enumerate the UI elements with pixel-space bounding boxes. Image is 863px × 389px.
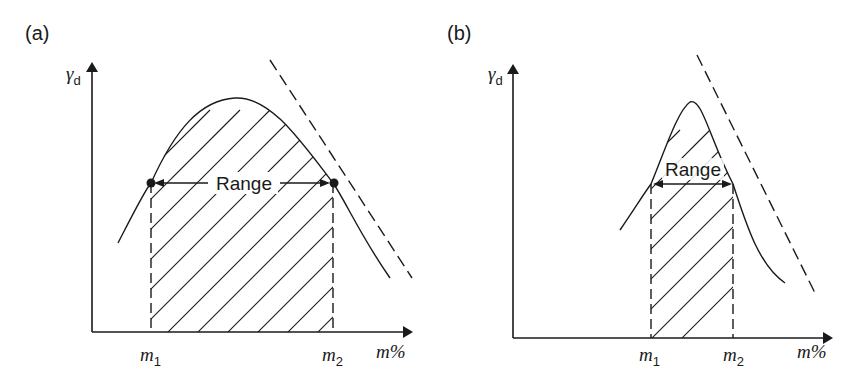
x-axis-arrow-icon — [403, 326, 413, 338]
arrow-right-icon — [722, 180, 732, 188]
range-label-a: Range — [216, 173, 272, 194]
arrow-left-icon — [653, 180, 663, 188]
range-point-m2-a — [330, 179, 339, 188]
y-axis-arrow-icon — [86, 62, 98, 72]
x-marker-m2-a: m2 — [322, 344, 343, 369]
y-axis-label-b: γd — [488, 63, 503, 88]
y-axis-label-a: γd — [66, 63, 81, 88]
panel-b: (b) — [440, 0, 863, 389]
compaction-chart-a: Range γd m1 m2 m% — [0, 0, 440, 389]
x-axis-label-a: m% — [376, 341, 406, 362]
compaction-curve-b — [620, 102, 785, 283]
x-marker-m1-b: m1 — [639, 344, 660, 369]
compaction-chart-b: Range γd m1 m2 m% — [440, 0, 863, 389]
zero-air-voids-line-a — [270, 60, 412, 278]
range-point-m1-a — [147, 179, 156, 188]
range-label-b: Range — [665, 159, 721, 180]
x-marker-m2-b: m2 — [723, 344, 744, 369]
panel-a: (a) — [0, 0, 440, 389]
x-axis-label-b: m% — [797, 341, 827, 362]
x-marker-m1-a: m1 — [140, 344, 161, 369]
arrow-right-icon — [320, 179, 330, 187]
y-axis-arrow-icon — [507, 64, 519, 74]
